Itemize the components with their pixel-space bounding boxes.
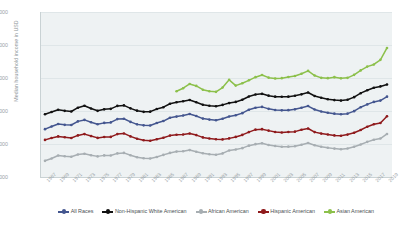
data-point-marker (248, 108, 251, 111)
data-point-marker (156, 138, 159, 141)
data-point-marker (261, 128, 264, 131)
data-point-marker (359, 129, 362, 132)
data-point-marker (287, 95, 290, 98)
data-point-marker (386, 83, 389, 86)
data-point-marker (103, 136, 106, 139)
data-point-marker (182, 150, 185, 153)
data-point-marker (234, 114, 237, 117)
data-point-marker (300, 106, 303, 109)
data-point-marker (320, 77, 323, 80)
data-point-marker (248, 131, 251, 134)
data-point-marker (359, 106, 362, 109)
y-tick-label: 60,000 (0, 111, 8, 117)
data-point-marker (63, 124, 66, 127)
data-point-marker (195, 101, 198, 104)
data-point-marker (50, 125, 53, 128)
data-point-marker (57, 108, 60, 111)
data-point-marker (261, 142, 264, 145)
data-point-marker (254, 106, 257, 109)
data-point-marker (149, 139, 152, 142)
data-point-marker (116, 152, 119, 155)
data-point-marker (366, 141, 369, 144)
data-point-marker (70, 110, 73, 113)
data-point-marker (234, 101, 237, 104)
data-point-marker (215, 153, 218, 156)
data-point-marker (109, 154, 112, 157)
data-point-marker (294, 145, 297, 148)
legend-item-label: African American (208, 209, 249, 214)
data-point-marker (221, 152, 224, 155)
data-point-marker (96, 137, 99, 140)
data-point-marker (136, 137, 139, 140)
data-point-marker (241, 98, 244, 101)
data-point-marker (228, 137, 231, 140)
data-point-marker (175, 115, 178, 118)
data-point-marker (208, 118, 211, 121)
data-point-marker (379, 122, 382, 125)
data-point-marker (366, 65, 369, 68)
data-point-marker (202, 88, 205, 91)
legend-item-african-american[interactable]: African American (196, 209, 249, 214)
data-point-marker (386, 95, 389, 98)
legend-item-label: Asian American (336, 209, 373, 214)
data-point-marker (359, 92, 362, 95)
legend-item-all-races[interactable]: All Races (58, 209, 93, 214)
legend-item-non-hispanic-white-american[interactable]: Non-Hispanic White American (102, 209, 186, 214)
data-point-marker (202, 136, 205, 139)
data-point-marker (188, 83, 191, 86)
data-point-marker (215, 105, 218, 108)
data-point-marker (373, 63, 376, 66)
data-point-marker (90, 121, 93, 124)
data-point-marker (162, 136, 165, 139)
data-point-marker (215, 91, 218, 94)
y-axis-title: Median household income in USD (13, 1, 19, 121)
data-point-marker (123, 152, 126, 155)
data-point-marker (77, 120, 80, 123)
data-point-marker (123, 117, 126, 120)
data-point-marker (366, 125, 369, 128)
data-point-marker (307, 70, 310, 73)
data-point-marker (142, 111, 145, 114)
data-point-marker (313, 74, 316, 77)
data-point-marker (228, 79, 231, 82)
data-point-marker (77, 106, 80, 109)
data-point-marker (116, 105, 119, 108)
legend-item-label: Non-Hispanic White American (115, 209, 187, 214)
data-point-marker (90, 107, 93, 110)
data-point-marker (175, 90, 178, 93)
data-point-marker (44, 160, 47, 163)
legend-item-hispanic-american[interactable]: Hispanic American (258, 209, 315, 214)
series-asian-american (175, 47, 388, 93)
legend-item-label: All Races (71, 209, 94, 214)
data-point-marker (234, 136, 237, 139)
y-tick-label: 20,000 (0, 177, 8, 183)
data-point-marker (208, 90, 211, 93)
data-point-marker (57, 135, 60, 138)
data-point-marker (169, 152, 172, 155)
data-point-marker (123, 132, 126, 135)
data-point-marker (333, 147, 336, 150)
data-point-marker (136, 109, 139, 112)
data-point-marker (287, 76, 290, 79)
data-point-marker (202, 152, 205, 155)
legend-item-asian-american[interactable]: Asian American (324, 209, 374, 214)
data-series-layer (40, 12, 392, 177)
data-point-marker (50, 111, 53, 114)
data-point-marker (267, 108, 270, 111)
data-point-marker (129, 107, 132, 110)
data-point-marker (70, 137, 73, 140)
data-point-marker (109, 136, 112, 139)
data-point-marker (327, 112, 330, 115)
data-point-marker (202, 103, 205, 106)
data-point-marker (169, 134, 172, 137)
y-tick-label: 40,000 (0, 144, 8, 150)
data-point-marker (241, 147, 244, 150)
data-point-marker (248, 95, 251, 98)
data-point-marker (116, 118, 119, 121)
data-point-marker (50, 157, 53, 160)
data-point-marker (340, 99, 343, 102)
data-point-marker (136, 123, 139, 126)
data-point-marker (103, 122, 106, 125)
data-point-marker (162, 120, 165, 123)
data-point-marker (241, 134, 244, 137)
